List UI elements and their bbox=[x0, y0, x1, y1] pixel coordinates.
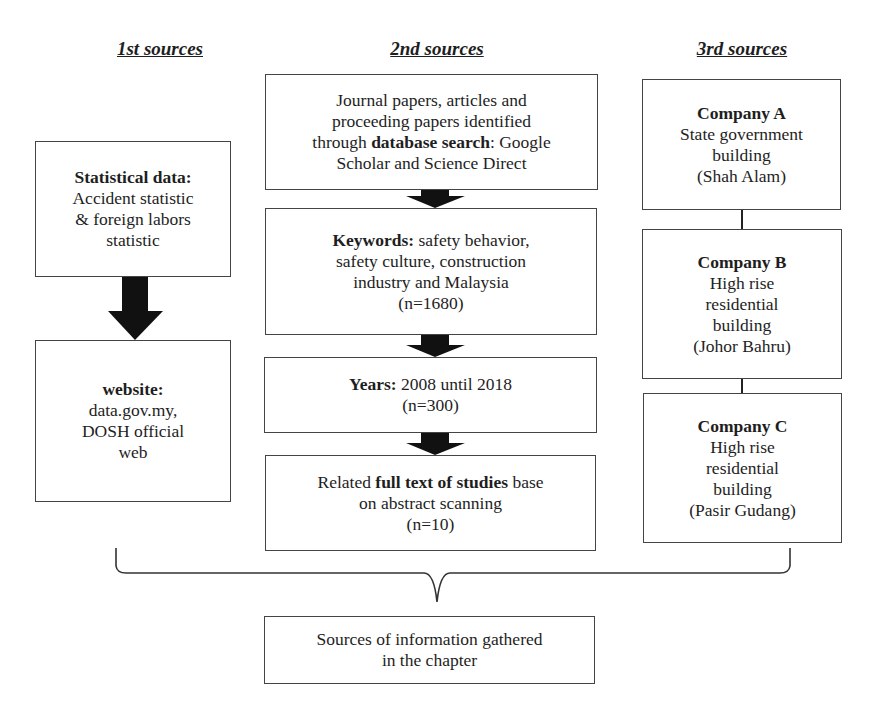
statistical-data-box: Statistical data: Accident statistic & f… bbox=[35, 141, 231, 277]
header-first-sources: 1st sources bbox=[50, 38, 270, 60]
box-text: Accident statistic bbox=[72, 188, 193, 209]
box-text: High rise bbox=[710, 437, 775, 458]
box-text: residential bbox=[706, 458, 779, 479]
box-text: statistic bbox=[106, 230, 159, 251]
count-text: (n=10) bbox=[407, 514, 455, 535]
box-title: Statistical data: bbox=[74, 167, 191, 188]
box-text: High rise bbox=[710, 273, 775, 294]
company-c-box: Company C High rise residential building… bbox=[643, 393, 842, 543]
box-text: Keywords: safety behavior, bbox=[332, 230, 529, 251]
box-text: through database search: Google bbox=[312, 132, 550, 153]
years-box: Years: 2008 until 2018 (n=300) bbox=[264, 357, 597, 433]
curly-brace-icon bbox=[116, 548, 790, 602]
arrow-down-icon bbox=[108, 276, 163, 340]
box-text: (Johor Bahru) bbox=[693, 336, 791, 357]
box-text: Scholar and Science Direct bbox=[337, 153, 527, 174]
box-text: DOSH official bbox=[82, 421, 184, 442]
box-text: on abstract scanning bbox=[359, 493, 502, 514]
box-text: Sources of information gathered bbox=[317, 629, 543, 650]
box-text: residential bbox=[706, 294, 779, 315]
box-title: Company B bbox=[698, 252, 787, 273]
count-text: (n=1680) bbox=[398, 293, 463, 314]
database-search-box: Journal papers, articles and proceeding … bbox=[265, 74, 598, 190]
box-text: building bbox=[713, 315, 771, 336]
header-second-sources: 2nd sources bbox=[327, 38, 547, 60]
result-box: Sources of information gathered in the c… bbox=[264, 616, 595, 684]
box-title: Company C bbox=[698, 416, 788, 437]
company-a-box: Company A State government building (Sha… bbox=[642, 79, 841, 210]
box-text: safety culture, construction bbox=[336, 251, 526, 272]
box-text: web bbox=[118, 442, 147, 463]
arrow-down-icon bbox=[406, 334, 465, 357]
box-title: Company A bbox=[697, 103, 786, 124]
box-text: building bbox=[712, 145, 770, 166]
company-b-box: Company B High rise residential building… bbox=[642, 229, 842, 379]
website-box: website: data.gov.my, DOSH official web bbox=[35, 340, 231, 502]
full-text-box: Related full text of studies base on abs… bbox=[265, 455, 596, 551]
box-text: Journal papers, articles and bbox=[336, 90, 526, 111]
keywords-box: Keywords: safety behavior, safety cultur… bbox=[265, 208, 597, 335]
box-text: (Pasir Gudang) bbox=[689, 500, 795, 521]
box-text: building bbox=[713, 479, 771, 500]
box-text: Related full text of studies base bbox=[317, 472, 543, 493]
box-text: industry and Malaysia bbox=[353, 272, 509, 293]
box-title: website: bbox=[102, 379, 163, 400]
box-text: proceeding papers identified bbox=[332, 111, 531, 132]
box-text: (Shah Alam) bbox=[697, 166, 786, 187]
arrow-down-icon bbox=[406, 432, 465, 455]
box-text: Years: 2008 until 2018 bbox=[349, 374, 512, 395]
box-text: & foreign labors bbox=[75, 209, 191, 230]
header-third-sources: 3rd sources bbox=[632, 38, 852, 60]
box-text: State government bbox=[680, 124, 803, 145]
box-text: data.gov.my, bbox=[89, 400, 178, 421]
count-text: (n=300) bbox=[402, 395, 459, 416]
box-text: in the chapter bbox=[382, 650, 477, 671]
arrow-down-icon bbox=[406, 189, 465, 208]
